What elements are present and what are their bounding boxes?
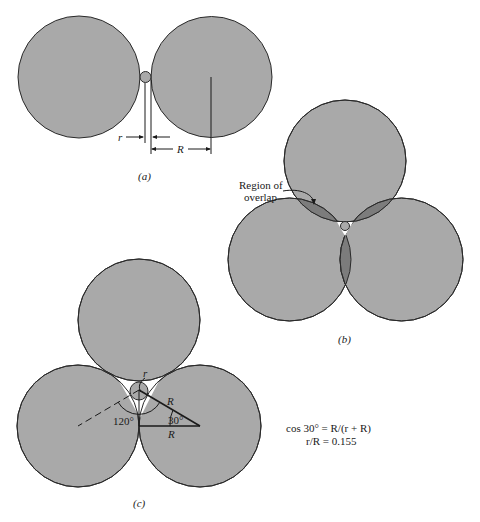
- caption-a: (a): [138, 170, 151, 183]
- label-R-a: R: [176, 143, 184, 155]
- close-packing-figure: r R (a) Region of overla: [0, 0, 480, 522]
- panel-b: Region of overlap (b): [228, 100, 463, 346]
- large-sphere-left: [18, 16, 140, 138]
- arrowhead-icon: [206, 147, 211, 151]
- caption-c: (c): [133, 497, 146, 510]
- callout-overlap: overlap: [244, 191, 277, 203]
- panel-a: r R (a): [18, 16, 272, 183]
- equation-cos30: cos 30° = R/(r + R): [286, 422, 371, 435]
- label-r-c: r: [143, 367, 148, 379]
- small-interstitial-sphere: [140, 72, 151, 83]
- equation-ratio: r/R = 0.155: [306, 435, 357, 447]
- arrowhead-icon: [139, 135, 144, 139]
- label-r-a: r: [118, 131, 123, 143]
- caption-b: (b): [338, 333, 351, 346]
- small-interstitial-sphere-b: [341, 222, 350, 231]
- callout-region-of: Region of: [239, 179, 283, 191]
- label-angle-30: 30°: [168, 414, 183, 426]
- label-angle-120: 120°: [113, 415, 134, 427]
- arrowhead-icon: [152, 135, 157, 139]
- arrowhead-icon: [151, 147, 156, 151]
- label-R-hypotenuse: R: [166, 395, 174, 407]
- sphere-top-c: [78, 259, 200, 381]
- label-R-base: R: [167, 428, 175, 440]
